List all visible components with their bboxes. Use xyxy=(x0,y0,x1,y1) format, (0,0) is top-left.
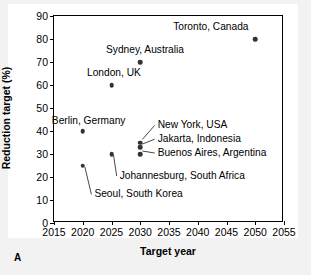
y-tick-mark xyxy=(50,131,54,132)
x-tick-label: 2030 xyxy=(129,226,152,238)
x-tick-mark xyxy=(54,221,55,225)
data-point xyxy=(80,129,85,134)
y-tick-label: 40 xyxy=(36,125,48,137)
x-tick-mark xyxy=(198,221,199,225)
y-tick-label: 80 xyxy=(36,33,48,45)
y-tick-mark xyxy=(50,39,54,40)
y-tick-mark xyxy=(50,85,54,86)
y-tick-label: 50 xyxy=(36,102,48,114)
y-tick-mark xyxy=(50,200,54,201)
x-tick-label: 2045 xyxy=(215,226,238,238)
y-axis-title: Reduction target (%) xyxy=(0,67,12,170)
point-label: Berlin, Germany xyxy=(52,116,126,126)
y-tick-label: 60 xyxy=(36,79,48,91)
y-tick-mark xyxy=(50,177,54,178)
point-label: Toronto, Canada xyxy=(173,21,248,31)
point-label: Johannesburg, South Africa xyxy=(120,171,245,181)
x-tick-mark xyxy=(169,221,170,225)
x-tick-mark xyxy=(255,221,256,225)
x-axis-title: Target year xyxy=(140,245,196,257)
point-label: Seoul, South Korea xyxy=(94,189,182,199)
data-point xyxy=(138,152,143,157)
y-tick-mark xyxy=(50,154,54,155)
point-label: London, UK xyxy=(87,67,141,77)
point-label: Buenos Aires, Argentina xyxy=(158,148,267,158)
data-point xyxy=(138,145,143,150)
data-point xyxy=(138,60,143,65)
y-tick-label: 70 xyxy=(36,56,48,68)
data-point xyxy=(80,163,85,168)
x-tick-label: 2020 xyxy=(71,226,94,238)
x-tick-mark xyxy=(83,221,84,225)
data-point xyxy=(109,152,114,157)
x-tick-mark xyxy=(284,221,285,225)
x-tick-label: 2040 xyxy=(186,226,209,238)
y-tick-label: 10 xyxy=(36,194,48,206)
panel-label: A xyxy=(14,252,21,263)
x-tick-label: 2035 xyxy=(157,226,180,238)
figure-panel: Reduction target (%) Target year 0102030… xyxy=(0,0,311,275)
y-tick-label: 90 xyxy=(36,10,48,22)
x-tick-label: 2025 xyxy=(100,226,123,238)
y-tick-mark xyxy=(50,16,54,17)
x-tick-label: 2015 xyxy=(42,226,65,238)
x-tick-mark xyxy=(140,221,141,225)
x-tick-label: 2050 xyxy=(244,226,267,238)
x-tick-mark xyxy=(227,221,228,225)
point-label: Sydney, Australia xyxy=(106,44,184,54)
y-tick-label: 30 xyxy=(36,148,48,160)
data-point xyxy=(253,37,258,42)
data-point xyxy=(109,83,114,88)
x-tick-mark xyxy=(112,221,113,225)
y-tick-mark xyxy=(50,62,54,63)
y-tick-label: 20 xyxy=(36,171,48,183)
x-tick-label: 2055 xyxy=(272,226,295,238)
y-tick-mark xyxy=(50,108,54,109)
point-label: New York, USA xyxy=(158,120,228,130)
point-label: Jakarta, Indonesia xyxy=(158,134,241,144)
